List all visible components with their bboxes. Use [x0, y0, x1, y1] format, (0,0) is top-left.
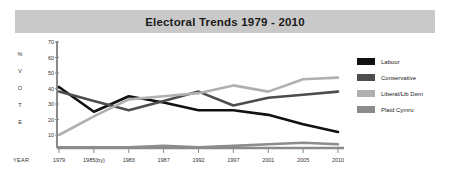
- legend-swatch-icon: [357, 74, 375, 81]
- series-line-plaid-cymru: [59, 143, 338, 148]
- x-tick-label-1992: 1992: [192, 157, 204, 163]
- legend-swatch-icon: [357, 106, 375, 113]
- legend-item-liberal-lib-dem[interactable]: Liberal/Lib Dem: [357, 90, 423, 97]
- x-tick-label-1979: 1979: [53, 157, 65, 163]
- legend-item-plaid-cymru[interactable]: Plaid Cymru: [357, 106, 423, 113]
- x-tick-label-1985(by): 1985(by): [83, 157, 105, 163]
- x-tick-label-2010: 2010: [332, 157, 344, 163]
- legend-item-conservative[interactable]: Conservative: [357, 74, 423, 81]
- legend-swatch-icon: [357, 90, 375, 97]
- y-tick-label-20: 20: [48, 117, 54, 123]
- legend-item-labour[interactable]: Labour: [357, 58, 423, 65]
- x-tick-label-1983: 1983: [123, 157, 135, 163]
- y-tick-label-50: 50: [48, 70, 54, 76]
- legend-swatch-icon: [357, 58, 375, 65]
- electoral-trends-chart: Electoral Trends 1979 - 2010 % V O T E Y…: [0, 0, 450, 176]
- y-tick-label-40: 40: [48, 86, 54, 92]
- legend-item-label: Labour: [381, 59, 400, 65]
- legend: LabourConservativeLiberal/Lib DemPlaid C…: [357, 58, 423, 113]
- legend-item-label: Liberal/Lib Dem: [381, 91, 423, 97]
- x-tick-label-2005: 2005: [297, 157, 309, 163]
- series-lines: [59, 78, 338, 148]
- y-tick-label-60: 60: [48, 55, 54, 61]
- legend-item-label: Conservative: [381, 75, 416, 81]
- y-tick-label-30: 30: [48, 101, 54, 107]
- y-tick-label-70: 70: [48, 39, 54, 45]
- x-tick-label-1987: 1987: [158, 157, 170, 163]
- y-tick-label-10: 10: [48, 132, 54, 138]
- x-tick-label-1997: 1997: [227, 157, 239, 163]
- x-axis-ticks: 19791985(by)1983198719921997200120052010: [53, 147, 344, 163]
- x-tick-label-2001: 2001: [262, 157, 274, 163]
- legend-item-label: Plaid Cymru: [381, 107, 414, 113]
- series-line-liberal-lib-dem: [59, 78, 338, 135]
